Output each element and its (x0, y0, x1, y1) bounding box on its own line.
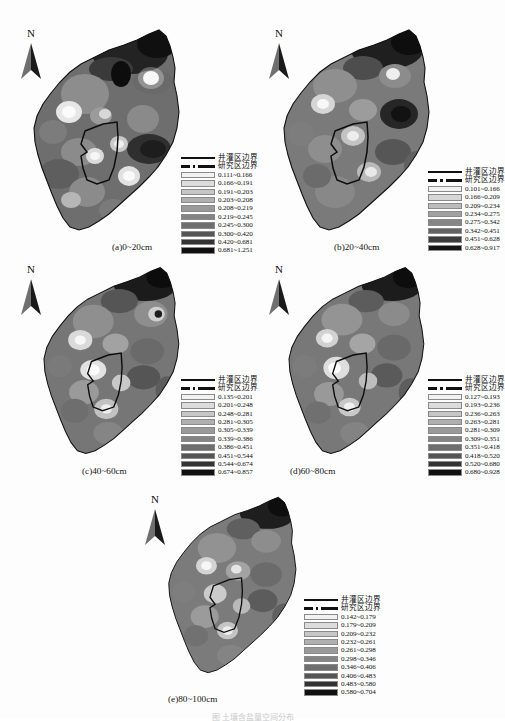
class-swatch (304, 631, 338, 637)
class-range-label: 0.309~0.351 (465, 435, 500, 443)
class-swatch (428, 419, 462, 425)
class-swatch (428, 211, 462, 217)
class-range-label: 0.261~0.298 (341, 646, 376, 654)
legend-row-class: 0.166~0.191 (181, 179, 258, 187)
class-swatch (428, 427, 462, 433)
class-swatch (428, 228, 462, 234)
class-range-label: 0.520~0.680 (465, 460, 500, 468)
legend-row-boundary: 研究区边界 (181, 384, 258, 392)
class-swatch (428, 444, 462, 450)
solid-line-swatch (428, 377, 462, 384)
legend-row-class: 0.209~0.234 (428, 202, 505, 210)
class-swatch (181, 172, 215, 178)
legend-row-class: 0.142~0.179 (304, 613, 381, 621)
class-swatch (181, 180, 215, 186)
map-a (25, 24, 185, 252)
panel-b: N (248, 18, 505, 266)
class-swatch (428, 394, 462, 400)
legend-row-class: 0.544~0.674 (181, 460, 258, 468)
class-swatch (181, 402, 215, 408)
map-d (280, 262, 430, 474)
map-surface-a (25, 24, 185, 252)
legend-label-study-boundary: 研究区边界 (465, 176, 505, 184)
legend-row-class: 0.674~0.857 (181, 468, 258, 476)
class-range-label: 0.351~0.418 (465, 443, 500, 451)
legend-e: 井灌区边界 研究区边界 0.142~0.179 0.179~0.209 0.20… (304, 596, 381, 697)
solid-line-swatch (428, 169, 462, 176)
legend-row-class: 0.298~0.346 (304, 655, 381, 663)
map-b (275, 24, 435, 252)
legend-row-class: 0.520~0.680 (428, 460, 505, 468)
class-swatch (428, 411, 462, 417)
map-e (157, 492, 305, 692)
class-swatch (304, 673, 338, 679)
map-raster-d (281, 262, 430, 474)
class-range-label: 0.406~0.483 (341, 672, 376, 680)
class-range-label: 0.275~0.342 (465, 218, 500, 226)
panel-a: N (0, 18, 252, 266)
legend-row-class: 0.203~0.208 (181, 196, 258, 204)
legend-row-class: 0.281~0.309 (428, 426, 505, 434)
map-surface-e (157, 492, 305, 692)
class-swatch (304, 622, 338, 628)
class-swatch (428, 194, 462, 200)
class-swatch (304, 639, 338, 645)
panel-caption-a: (a)0~20cm (112, 242, 152, 253)
legend-row-class: 0.275~0.342 (428, 218, 505, 226)
legend-row-class: 0.201~0.248 (181, 401, 258, 409)
class-range-label: 0.236~0.263 (465, 410, 500, 418)
panel-e: N (124, 488, 384, 710)
map-c (35, 262, 185, 474)
map-raster-c (36, 262, 185, 474)
legend-row-class: 0.248~0.281 (181, 410, 258, 418)
legend-row-class: 0.346~0.406 (304, 663, 381, 671)
panel-caption-b: (b)20~40cm (334, 242, 379, 253)
class-swatch (181, 427, 215, 433)
legend-row-class: 0.261~0.298 (304, 646, 381, 654)
legend-row-class: 0.451~0.628 (428, 235, 505, 243)
legend-row-class: 0.483~0.580 (304, 680, 381, 688)
legend-row-class: 0.111~0.166 (181, 171, 258, 179)
solid-line-swatch (181, 155, 215, 162)
class-swatch (181, 222, 215, 228)
class-swatch (428, 245, 462, 251)
dash-dot-line-swatch (428, 385, 462, 392)
class-range-label: 0.483~0.580 (341, 680, 376, 688)
class-range-label: 0.281~0.309 (465, 426, 500, 434)
class-range-label: 0.418~0.520 (465, 452, 500, 460)
class-range-label: 0.263~0.281 (465, 418, 500, 426)
legend-row-class: 0.193~0.236 (428, 401, 505, 409)
legend-d: 井灌区边界 研究区边界 0.127~0.193 0.193~0.236 0.23… (428, 376, 505, 477)
legend-row-class: 0.179~0.209 (304, 621, 381, 629)
legend-row-class: 0.101~0.166 (428, 185, 505, 193)
class-range-label: 0.193~0.236 (465, 401, 500, 409)
legend-row-class: 0.305~0.339 (181, 426, 258, 434)
legend-row-boundary: 研究区边界 (428, 176, 505, 184)
legend-row-class: 0.580~0.704 (304, 688, 381, 696)
class-swatch (181, 419, 215, 425)
class-swatch (181, 239, 215, 245)
legend-row-class: 0.234~0.275 (428, 210, 505, 218)
map-raster-b (275, 24, 435, 252)
legend-row-class: 0.245~0.300 (181, 221, 258, 229)
class-range-label: 0.580~0.704 (341, 688, 376, 696)
legend-row-class: 0.386~0.451 (181, 443, 258, 451)
panel-c: N (0, 258, 252, 490)
legend-label-study-boundary: 研究区边界 (341, 604, 381, 612)
map-raster-a (25, 24, 185, 252)
class-swatch (304, 689, 338, 695)
class-swatch (181, 461, 215, 467)
class-range-label: 0.101~0.166 (465, 185, 500, 193)
panel-d: N (248, 258, 505, 490)
class-swatch (181, 197, 215, 203)
class-range-label: 0.232~0.261 (341, 638, 376, 646)
legend-row-boundary: 研究区边界 (304, 604, 381, 612)
class-swatch (181, 247, 215, 253)
map-surface-d (280, 262, 430, 474)
legend-label-study-boundary: 研究区边界 (465, 384, 505, 392)
legend-row-boundary: 研究区边界 (181, 162, 258, 170)
class-swatch (304, 614, 338, 620)
legend-c: 井灌区边界 研究区边界 0.135~0.201 0.201~0.248 0.24… (181, 376, 258, 477)
legend-row-class: 0.406~0.483 (304, 672, 381, 680)
